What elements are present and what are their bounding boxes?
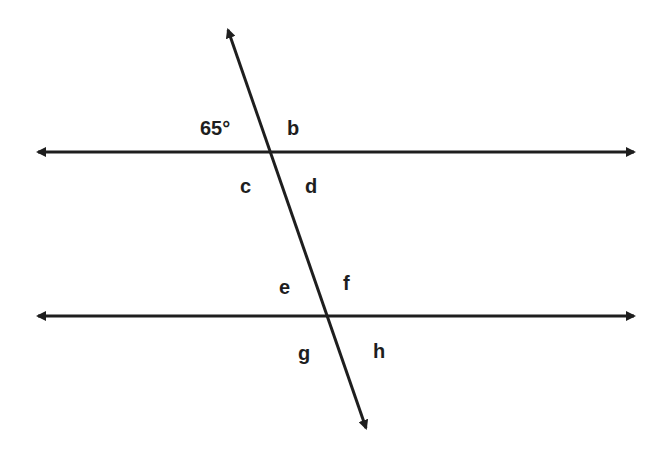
angle-label-e: e — [279, 277, 290, 297]
angle-label-h: h — [373, 341, 385, 361]
angle-label-g: g — [298, 343, 310, 363]
angle-label-d: d — [305, 176, 317, 196]
transversal-line — [228, 30, 366, 428]
angle-label-f: f — [343, 273, 350, 293]
angle-label-b: b — [287, 118, 299, 138]
angle-label-c: c — [240, 176, 251, 196]
parallel-lines-diagram — [0, 0, 657, 450]
angle-label-65-degrees: 65° — [200, 118, 230, 138]
